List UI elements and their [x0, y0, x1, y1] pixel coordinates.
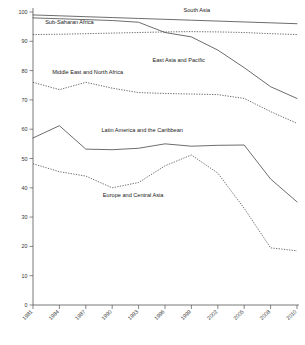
y-tick-label: 30 — [22, 214, 28, 220]
series-label-middle-east-and-north-africa: Middle East and North Africa — [52, 69, 124, 75]
x-tick-label: 1996 — [153, 308, 166, 321]
x-tick-label: 1999 — [179, 308, 192, 321]
y-tick-label: 0 — [25, 302, 28, 308]
y-tick-label: 90 — [22, 38, 28, 44]
chart-canvas: 0102030405060708090100198119841987199019… — [0, 0, 305, 345]
x-tick-label: 2008 — [259, 308, 272, 321]
series-line-sub-saharan-africa — [33, 32, 297, 35]
series-label-sub-saharan-africa: Sub-Saharan Africa — [45, 19, 94, 25]
line-chart: 0102030405060708090100198119841987199019… — [0, 0, 305, 345]
y-tick-label: 40 — [22, 185, 28, 191]
series-label-south-asia: South Asia — [183, 7, 211, 13]
series-label-east-asia-and-pacific: East Asia and Pacific — [153, 57, 205, 63]
x-tick-label: 1987 — [74, 308, 87, 321]
y-tick-label: 100 — [19, 9, 28, 15]
x-tick-label: 1981 — [21, 308, 34, 321]
x-tick-label: 2002 — [206, 308, 219, 321]
y-tick-label: 60 — [22, 126, 28, 132]
series-label-latin-america-and-the-caribbean: Latin America and the Caribbean — [101, 127, 182, 133]
x-tick-label: 2005 — [232, 308, 245, 321]
x-tick-label: 1984 — [47, 308, 60, 321]
series-line-latin-america-and-the-caribbean — [33, 126, 297, 202]
series-label-europe-and-central-asia: Europe and Central Asia — [103, 192, 165, 198]
series-line-middle-east-and-north-africa — [33, 82, 297, 123]
x-tick-label: 2010 — [285, 308, 298, 321]
y-tick-label: 70 — [22, 97, 28, 103]
x-tick-label: 1993 — [127, 308, 140, 321]
y-tick-label: 20 — [22, 243, 28, 249]
x-tick-label: 1990 — [100, 308, 113, 321]
y-tick-label: 50 — [22, 156, 28, 162]
y-tick-label: 10 — [22, 273, 28, 279]
y-tick-label: 80 — [22, 68, 28, 74]
series-line-europe-and-central-asia — [33, 155, 297, 251]
